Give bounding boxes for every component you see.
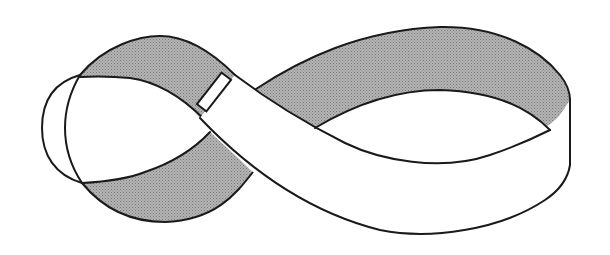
left-end-cap-outer-arc xyxy=(42,75,82,183)
right-shaded-surface xyxy=(256,27,570,130)
left-end-cap-inner-arc xyxy=(65,75,82,183)
twisted-band-figure xyxy=(0,0,610,255)
diagram-canvas: twisted band xyxy=(0,0,610,255)
